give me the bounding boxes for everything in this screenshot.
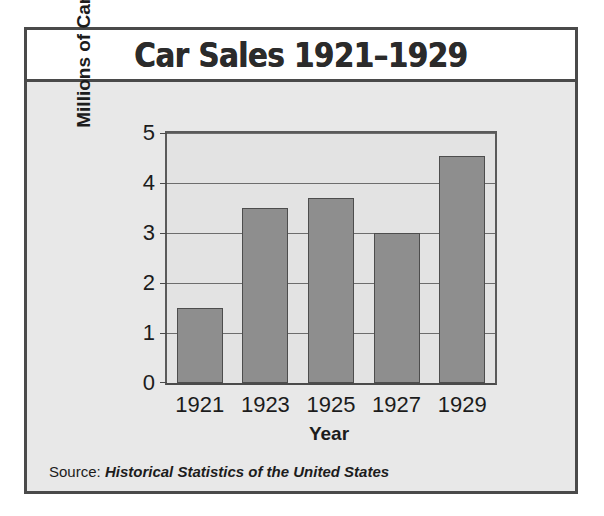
y-tick-label: 3 — [143, 220, 155, 246]
x-tick-label: 1923 — [241, 392, 290, 418]
source-prefix: Source: — [49, 463, 105, 480]
y-tick-mark — [160, 133, 167, 134]
y-tick-mark — [160, 333, 167, 334]
bar — [439, 156, 485, 384]
chart-figure: Car Sales 1921–1929 Millions of Cars 012… — [24, 27, 578, 494]
plot-area: 012345 19211923192519271929 — [165, 131, 497, 385]
y-tick-mark — [160, 233, 167, 234]
y-tick-mark — [160, 183, 167, 184]
x-axis-title: Year — [165, 423, 493, 445]
y-tick-label: 5 — [143, 120, 155, 146]
y-axis-title: Millions of Cars — [73, 0, 95, 157]
bar-series — [167, 133, 495, 383]
source-note: Source: Historical Statistics of the Uni… — [49, 463, 389, 480]
y-tick-label: 1 — [143, 320, 155, 346]
y-tick-label: 2 — [143, 270, 155, 296]
bar — [242, 208, 288, 383]
y-tick-label: 4 — [143, 170, 155, 196]
source-reference: Historical Statistics of the United Stat… — [105, 463, 389, 480]
y-tick-label: 0 — [143, 370, 155, 396]
x-tick-label: 1925 — [307, 392, 356, 418]
bar — [374, 233, 420, 383]
y-tick-mark — [160, 283, 167, 284]
x-tick-label: 1927 — [372, 392, 421, 418]
x-tick-label: 1929 — [438, 392, 487, 418]
bar — [308, 198, 354, 383]
page-title: Car Sales 1921–1929 — [134, 35, 467, 75]
chart-body: Millions of Cars 012345 1921192319251927… — [27, 82, 575, 491]
chart-title-band: Car Sales 1921–1929 — [27, 30, 575, 82]
x-tick-label: 1921 — [175, 392, 224, 418]
bar — [177, 308, 223, 383]
y-tick-mark — [160, 382, 167, 383]
